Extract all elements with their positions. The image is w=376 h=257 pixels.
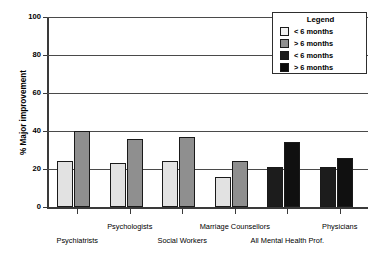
bar: [179, 137, 195, 207]
bar: [337, 158, 353, 207]
x-axis-label: Physicians: [280, 222, 376, 231]
legend-swatch: [280, 63, 289, 72]
y-axis-title: % Major improvement: [19, 48, 28, 178]
x-axis-tick-mark: [182, 209, 183, 214]
bar: [320, 167, 336, 207]
bar-group: [104, 17, 157, 207]
x-axis-tick-mark: [287, 209, 288, 214]
bar: [110, 163, 126, 207]
legend-label: < 6 months: [294, 27, 333, 37]
y-axis-tick-label: 40: [13, 127, 41, 135]
bar: [232, 161, 248, 207]
y-axis-tick-mark: [43, 207, 47, 208]
bar: [74, 131, 90, 207]
x-axis-tick-mark: [130, 209, 131, 214]
x-axis-tick-mark: [340, 209, 341, 214]
x-axis-tick-mark: [77, 209, 78, 214]
x-axis-label: Social Workers: [122, 236, 242, 245]
bar: [215, 177, 231, 207]
x-axis-line: [47, 207, 368, 209]
y-axis-tick-label: 100: [13, 13, 41, 21]
bar: [284, 142, 300, 207]
bar: [162, 161, 178, 207]
bar-group: [51, 17, 104, 207]
y-axis-tick-label: 80: [13, 51, 41, 59]
y-axis-tick-label: 60: [13, 89, 41, 97]
legend-title: Legend: [273, 15, 368, 24]
x-axis-tick-mark: [235, 209, 236, 214]
x-axis-label: Psychologists: [70, 222, 190, 231]
bar: [267, 167, 283, 207]
legend-swatch: [280, 51, 289, 60]
bar-group: [156, 17, 209, 207]
x-axis-label: Marriage Counsellors: [175, 222, 295, 231]
y-axis-tick-label: 0: [13, 203, 41, 211]
bar-group: [209, 17, 262, 207]
legend-swatch: [280, 39, 289, 48]
legend-box: Legend < 6 months> 6 months< 6 months> 6…: [272, 12, 367, 74]
legend-label: < 6 months: [294, 51, 333, 61]
bar: [127, 139, 143, 207]
legend-label: > 6 months: [294, 39, 333, 49]
x-axis-label: Psychiatrists: [17, 236, 137, 245]
legend-swatch: [280, 27, 289, 36]
x-axis-label: All Mental Health Prof.: [227, 236, 347, 245]
y-axis-tick-label: 20: [13, 165, 41, 173]
bar-chart-figure: % Major improvement 020406080100 Psychia…: [0, 0, 376, 257]
legend-label: > 6 months: [294, 63, 333, 73]
bar: [57, 161, 73, 207]
